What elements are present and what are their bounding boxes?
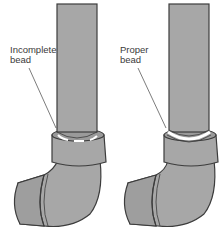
right-elbow-socket <box>124 175 156 226</box>
label-line-2: bead <box>10 55 56 65</box>
label-proper-bead: Proper bead <box>120 45 149 65</box>
label-line-2: bead <box>120 55 149 65</box>
right-pipe <box>169 4 209 132</box>
right-pipe-assembly <box>124 4 218 227</box>
left-pipe-assembly <box>14 4 106 227</box>
label-incomplete-bead: Incomplete bead <box>10 45 56 65</box>
pipe-joint-diagram <box>0 0 222 231</box>
right-leader-line <box>138 68 166 128</box>
left-pipe <box>57 4 97 132</box>
left-leader-line <box>29 68 56 128</box>
